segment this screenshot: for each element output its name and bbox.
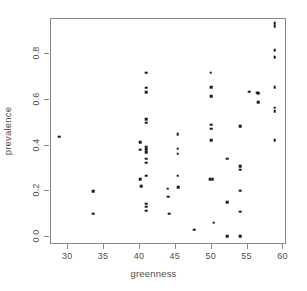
x-axis-tick bbox=[282, 244, 283, 249]
x-axis-tick bbox=[67, 244, 68, 249]
x-axis-tick-label: 30 bbox=[62, 251, 72, 261]
y-axis-tick bbox=[44, 190, 49, 191]
x-axis-tick-label: 50 bbox=[205, 251, 215, 261]
y-axis-tick-label: 0.4 bbox=[31, 136, 41, 154]
x-axis-label: greenness bbox=[0, 268, 307, 279]
x-axis-tick-label: 55 bbox=[241, 251, 251, 261]
y-axis-tick bbox=[44, 99, 49, 100]
y-axis-tick bbox=[44, 236, 49, 237]
y-axis-label: prevalence bbox=[2, 107, 13, 155]
x-axis-tick-label: 40 bbox=[134, 251, 144, 261]
y-axis-tick-label: 0.0 bbox=[31, 227, 41, 245]
x-axis-tick-label: 35 bbox=[98, 251, 108, 261]
y-axis-tick bbox=[44, 145, 49, 146]
x-axis-tick-label: 45 bbox=[170, 251, 180, 261]
x-axis-tick bbox=[103, 244, 104, 249]
x-axis-tick bbox=[139, 244, 140, 249]
y-axis-tick-label: 0.8 bbox=[31, 44, 41, 62]
x-axis-tick bbox=[247, 244, 248, 249]
y-axis-tick-label: 0.2 bbox=[31, 181, 41, 199]
plot-area-border bbox=[50, 18, 286, 244]
scatter-plot-figure: greenness prevalence 303540455055600.00.… bbox=[0, 0, 307, 291]
x-axis-tick bbox=[211, 244, 212, 249]
y-axis-tick-label: 0.6 bbox=[31, 90, 41, 108]
x-axis-tick-label: 60 bbox=[277, 251, 287, 261]
x-axis-tick bbox=[175, 244, 176, 249]
y-axis-tick bbox=[44, 53, 49, 54]
